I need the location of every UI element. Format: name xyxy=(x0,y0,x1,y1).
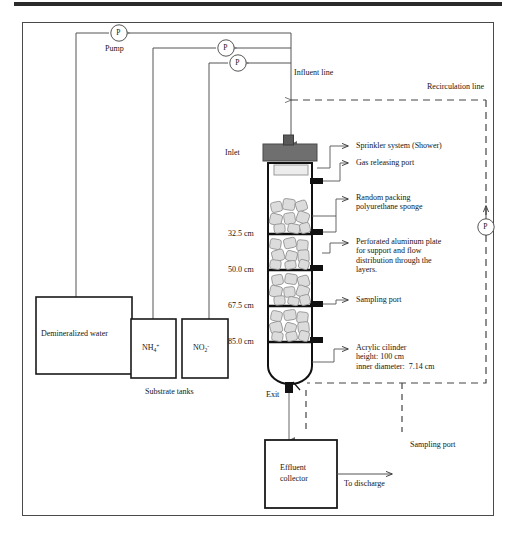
sampling-port-stub-3[interactable] xyxy=(310,301,323,307)
leader-random-packing xyxy=(312,199,348,216)
height-mark-1: 32.5 cm xyxy=(228,229,254,238)
leader-sampling-port xyxy=(323,300,348,304)
effluent-collector-label-line2: collector xyxy=(280,474,308,483)
effluent-piping xyxy=(265,393,392,508)
diagram-canvas: P P P P Pump Influent line Recirculation… xyxy=(0,0,518,542)
exit-valve[interactable] xyxy=(285,382,293,393)
pipe-demin-to-pump1 xyxy=(76,33,291,297)
callout-acrylic-cylinder: Acrylic cilinder height: 100 cm inner di… xyxy=(356,343,434,371)
height-mark-3: 67.5 cm xyxy=(228,301,254,310)
exit-label: Exit xyxy=(266,390,279,399)
sponge-layer-4 xyxy=(269,309,310,342)
leader-sprinkler xyxy=(317,146,348,168)
sampling-port-effluent-stub xyxy=(306,383,402,432)
influent-line-label: Influent line xyxy=(294,68,333,77)
ammonium-tank-label: NH4+ xyxy=(142,343,160,353)
leader-perforated-plate xyxy=(322,243,348,253)
nitrite-tank-label: NO2- xyxy=(193,343,209,353)
gas-releasing-port-stub[interactable] xyxy=(310,178,323,184)
pump-1-letter: P xyxy=(116,29,120,38)
callout-gas-releasing-port: Gas releasing port xyxy=(356,158,414,167)
callout-perforated-plate: Perforated aluminum plate for support an… xyxy=(356,237,441,275)
sprinkler-shower-plate xyxy=(274,165,308,175)
inlet-label: Inlet xyxy=(225,148,240,157)
height-mark-2: 50.0 cm xyxy=(228,265,254,274)
leader-acrylic-cylinder xyxy=(312,349,348,362)
nitrite-formula-sup: - xyxy=(207,343,209,349)
reactor-top-cap xyxy=(263,144,317,161)
recirculation-line-label: Recirculation line xyxy=(427,82,484,91)
pump-2-letter: P xyxy=(223,44,227,53)
sampling-port-stub-2[interactable] xyxy=(310,265,323,271)
sampling-port-stub-1[interactable] xyxy=(310,229,323,235)
inlet-nipple xyxy=(284,135,294,145)
nitrite-formula-base: NO xyxy=(193,343,205,352)
ammonium-formula-sup: + xyxy=(156,343,159,349)
sponge-layer-3 xyxy=(269,273,311,306)
to-discharge-label: To discharge xyxy=(344,479,385,488)
callout-sampling-port: Sampling port xyxy=(356,295,402,304)
height-mark-4: 85.0 cm xyxy=(228,337,254,346)
pump-3-letter: P xyxy=(235,59,239,68)
pump-recirculation-letter: P xyxy=(483,223,487,232)
sponge-layer-1 xyxy=(269,198,311,234)
sponge-layer-2 xyxy=(269,237,310,270)
leader-gas-port xyxy=(323,163,348,181)
effluent-collector-label-line1: Effluent xyxy=(280,463,306,472)
substrate-tanks-caption: Substrate tanks xyxy=(145,387,194,396)
leader-random-packing-2 xyxy=(323,216,336,232)
pump-1-label: Pump xyxy=(105,44,124,53)
sampling-port-stub-4[interactable] xyxy=(310,337,323,343)
ammonium-formula-base: NH xyxy=(142,343,154,352)
callout-random-packing: Random packing polyurethane sponge xyxy=(356,193,422,212)
callout-sprinkler: Sprinkler system (Shower) xyxy=(356,141,442,150)
demineralized-water-tank-label: Demineralized water xyxy=(41,329,108,338)
callout-sampling-port-effluent: Sampling port xyxy=(410,440,456,449)
